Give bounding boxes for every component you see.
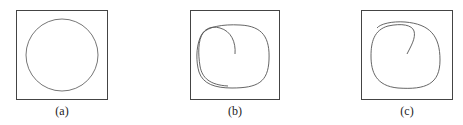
spiral-curve-b bbox=[197, 25, 269, 88]
circle-shape bbox=[26, 19, 98, 91]
panel-a-frame bbox=[17, 11, 108, 100]
panel-c-caption: (c) bbox=[387, 104, 427, 119]
spiral-curve-c bbox=[371, 22, 440, 89]
panel-c-frame bbox=[362, 11, 453, 100]
panel-b-frame bbox=[191, 11, 280, 100]
panel-b bbox=[191, 11, 280, 100]
panel-b-caption: (b) bbox=[215, 104, 255, 119]
panel-c bbox=[362, 11, 453, 100]
panel-a bbox=[17, 11, 108, 100]
panel-a-caption: (a) bbox=[42, 104, 82, 119]
